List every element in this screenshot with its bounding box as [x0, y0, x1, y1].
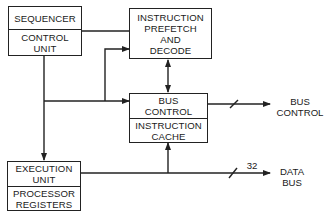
bus-control-output-label: BUS CONTROL	[272, 96, 328, 118]
instruction-text: INSTRUCTION	[135, 120, 202, 131]
bus-control-label: BUS CONTROL	[130, 94, 207, 118]
data-bus-line2: BUS	[272, 177, 312, 188]
bus-control-line2: CONTROL	[272, 107, 328, 118]
bus-control-block: BUS CONTROL INSTRUCTION CACHE	[129, 93, 208, 143]
bus-width-text: 32	[247, 160, 258, 171]
sequencer-text: SEQUENCER	[14, 13, 76, 24]
unit-text: UNIT	[34, 43, 57, 54]
registers-text: REGISTERS	[16, 199, 72, 210]
processor-registers-label: PROCESSOR REGISTERS	[8, 187, 80, 210]
execution-unit-block: EXECUTION UNIT PROCESSOR REGISTERS	[7, 161, 81, 211]
execution-unit-label: EXECUTION UNIT	[8, 162, 80, 186]
instruction-cache-label: INSTRUCTION CACHE	[130, 119, 207, 142]
execution-text: EXECUTION	[16, 163, 73, 174]
prefetch-decode-block: INSTRUCTION PREFETCH AND DECODE	[129, 8, 212, 59]
unit-text: UNIT	[33, 174, 56, 185]
prefetch-line3: AND	[160, 34, 181, 45]
control-text: CONTROL	[145, 106, 193, 117]
prefetch-line4: DECODE	[150, 45, 192, 56]
control-unit-label: CONTROL UNIT	[9, 30, 81, 55]
prefetch-line1: INSTRUCTION	[137, 12, 204, 23]
prefetch-line2: PREFETCH	[144, 23, 197, 34]
cache-text: CACHE	[151, 131, 185, 142]
bus-text: BUS	[158, 95, 178, 106]
control-unit-block: SEQUENCER CONTROL UNIT	[8, 6, 82, 56]
prefetch-label: INSTRUCTION PREFETCH AND DECODE	[130, 11, 211, 56]
processor-text: PROCESSOR	[13, 188, 75, 199]
control-text: CONTROL	[21, 32, 69, 43]
branch-to-prefetch-arrow	[105, 49, 129, 101]
bus-control-line1: BUS	[272, 96, 328, 107]
data-bus-width-label: 32	[244, 160, 260, 171]
data-bus-output-label: DATA BUS	[272, 166, 312, 188]
sequencer-label: SEQUENCER	[9, 7, 81, 30]
data-bus-line1: DATA	[272, 166, 312, 177]
